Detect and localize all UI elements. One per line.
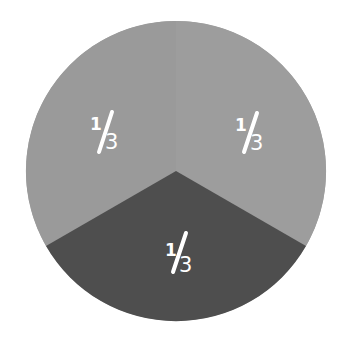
svg-text:3: 3: [250, 131, 263, 155]
svg-text:3: 3: [105, 130, 118, 154]
svg-text:1: 1: [90, 114, 102, 134]
svg-text:3: 3: [179, 253, 192, 277]
svg-text:1: 1: [165, 240, 177, 260]
pie-chart: 1 3 1 3 1 3: [0, 0, 346, 337]
svg-text:1: 1: [235, 115, 247, 135]
